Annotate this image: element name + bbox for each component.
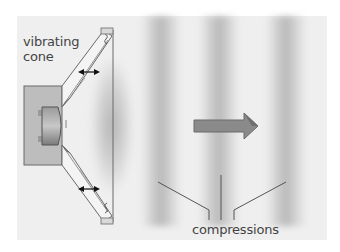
vibrating-cone-label: vibrating cone xyxy=(23,34,79,64)
compression-leader-lines xyxy=(158,175,286,220)
speaker-frame xyxy=(101,28,113,224)
compressions-label: compressions xyxy=(192,222,279,237)
vibrating-cone-label-line2: cone xyxy=(23,49,79,64)
vibrating-cone-lower xyxy=(62,145,112,222)
propagation-arrow-icon xyxy=(194,113,258,139)
vibrating-cone-label-line1: vibrating xyxy=(23,34,79,49)
